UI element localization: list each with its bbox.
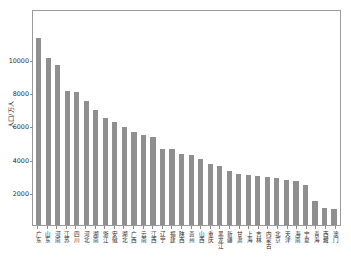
x-tick-mark <box>219 226 220 229</box>
x-tick-cell: 浙江 <box>102 226 107 243</box>
x-tick-label: 吉林 <box>255 231 261 243</box>
x-tick-mark <box>104 226 105 229</box>
bar <box>217 166 222 225</box>
bar <box>331 209 336 225</box>
x-tick-mark <box>335 226 336 229</box>
x-tick-mark <box>200 226 201 229</box>
x-tick-label: 澳门 <box>332 231 338 243</box>
x-tick-cell: 河北 <box>83 226 88 243</box>
bar <box>93 110 98 225</box>
x-tick-mark <box>75 226 76 229</box>
bar <box>293 181 298 225</box>
x-tick-mark <box>277 226 278 229</box>
x-tick-mark <box>66 226 67 229</box>
bar <box>236 174 241 225</box>
x-tick-mark <box>287 226 288 229</box>
x-tick-mark <box>56 226 57 229</box>
x-tick-label: 新疆 <box>227 231 233 243</box>
bar <box>65 91 70 225</box>
bar <box>55 65 60 225</box>
x-tick-label: 西藏 <box>322 231 328 243</box>
x-tick-cell: 上海 <box>246 226 251 243</box>
x-tick-label: 江西 <box>150 231 156 243</box>
plot-area: 200040006000800010000 <box>32 10 341 226</box>
x-tick-mark <box>296 226 297 229</box>
bar <box>36 38 41 225</box>
bar <box>208 164 213 225</box>
x-axis-labels: 广东山东河南江苏四川河北湖南浙江安徽湖北广西云南江西辽宁福建陕西贵州山西重庆黑龙… <box>32 226 341 268</box>
x-tick-mark <box>258 226 259 229</box>
x-tick-label: 广东 <box>35 231 41 243</box>
bar <box>141 135 146 225</box>
x-tick-label: 湖北 <box>121 231 127 243</box>
x-tick-cell: 辽宁 <box>160 226 165 243</box>
x-tick-label: 河南 <box>54 231 60 243</box>
x-tick-label: 天津 <box>284 231 290 243</box>
x-tick-cell: 湖南 <box>93 226 98 243</box>
bar <box>322 208 327 225</box>
x-tick-label: 江苏 <box>63 231 69 243</box>
bar <box>84 101 89 225</box>
bar <box>160 149 165 225</box>
bar <box>246 175 251 225</box>
x-tick-cell: 黑龙江 <box>217 226 222 249</box>
x-tick-label: 湖南 <box>92 231 98 243</box>
x-tick-label: 北京 <box>274 231 280 243</box>
x-tick-label: 安徽 <box>111 231 117 243</box>
x-tick-label: 河北 <box>83 231 89 243</box>
x-tick-label: 广西 <box>131 231 137 243</box>
x-tick-cell: 山东 <box>45 226 50 243</box>
bar <box>131 132 136 225</box>
x-tick-mark <box>114 226 115 229</box>
x-tick-cell: 广东 <box>35 226 40 243</box>
x-tick-cell: 福建 <box>169 226 174 243</box>
x-tick-label: 上海 <box>246 231 252 243</box>
bar <box>103 118 108 225</box>
x-tick-mark <box>37 226 38 229</box>
bar <box>274 178 279 225</box>
bar <box>112 122 117 225</box>
x-tick-mark <box>123 226 124 229</box>
x-tick-cell: 海南 <box>294 226 299 243</box>
x-tick-mark <box>171 226 172 229</box>
x-tick-cell: 湖北 <box>121 226 126 243</box>
x-tick-mark <box>306 226 307 229</box>
x-tick-mark <box>181 226 182 229</box>
x-tick-cell: 甘肃 <box>236 226 241 243</box>
x-tick-mark <box>229 226 230 229</box>
bar <box>303 185 308 225</box>
x-tick-cell: 河南 <box>54 226 59 243</box>
x-tick-mark <box>143 226 144 229</box>
x-tick-mark <box>210 226 211 229</box>
bar <box>265 177 270 225</box>
x-tick-cell: 广西 <box>131 226 136 243</box>
bar <box>284 180 289 225</box>
x-tick-mark <box>191 226 192 229</box>
x-tick-mark <box>325 226 326 229</box>
x-tick-cell: 内蒙古 <box>265 226 270 249</box>
x-tick-cell: 新疆 <box>227 226 232 243</box>
x-tick-cell: 安徽 <box>112 226 117 243</box>
x-tick-cell: 北京 <box>275 226 280 243</box>
x-tick-cell: 西藏 <box>323 226 328 243</box>
chart-figure: 人口/万人 200040006000800010000 广东山东河南江苏四川河北… <box>0 0 351 268</box>
bar <box>169 149 174 225</box>
x-tick-mark <box>239 226 240 229</box>
bar <box>312 201 317 225</box>
x-tick-cell: 四川 <box>73 226 78 243</box>
x-tick-label: 甘肃 <box>236 231 242 243</box>
x-tick-label: 黑龙江 <box>217 231 223 249</box>
x-tick-label: 辽宁 <box>159 231 165 243</box>
x-tick-cell: 天津 <box>284 226 289 243</box>
bar <box>150 137 155 225</box>
x-tick-cell: 重庆 <box>208 226 213 243</box>
x-tick-mark <box>248 226 249 229</box>
bar <box>122 127 127 225</box>
x-tick-cell: 云南 <box>141 226 146 243</box>
bar <box>74 92 79 225</box>
x-tick-cell: 宁夏 <box>304 226 309 243</box>
x-tick-label: 福建 <box>169 231 175 243</box>
x-tick-label: 四川 <box>73 231 79 243</box>
bar <box>179 154 184 225</box>
x-tick-cell: 江西 <box>150 226 155 243</box>
